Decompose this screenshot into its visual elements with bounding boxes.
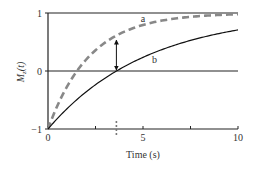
series-group — [48, 14, 238, 129]
y-axis-title-arg: (t) — [15, 61, 27, 71]
x-axis-title: Time (s) — [126, 149, 160, 161]
y-tick-label: 0 — [37, 66, 42, 77]
y-tick-label: 1 — [37, 8, 42, 19]
x-tick-label: 10 — [233, 132, 243, 143]
curve-label-a: a — [141, 13, 146, 24]
series-line-b — [48, 30, 238, 129]
axes: 0510−101 — [31, 8, 243, 144]
series-line-a — [48, 14, 238, 129]
x-tick-label: 5 — [141, 132, 146, 143]
chart: 0510−101 ab Time (s) Mz(t) — [0, 0, 253, 169]
y-tick-label: −1 — [31, 124, 42, 135]
curve-label-b: b — [152, 54, 157, 65]
x-tick-label: 0 — [46, 132, 51, 143]
y-axis-title: Mz(t) — [15, 61, 28, 83]
